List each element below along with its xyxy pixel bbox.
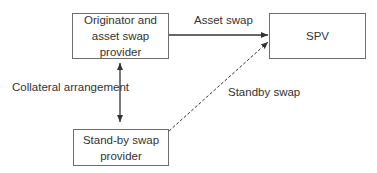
asset-swap-label: Asset swap <box>194 13 253 27</box>
collateral-arrangement-label: Collateral arrangement <box>12 80 129 94</box>
standby-label: Stand-by swap provider <box>83 132 159 164</box>
spv-node: SPV <box>269 13 366 59</box>
originator-label: Originator and asset swap provider <box>73 12 168 60</box>
diagram-canvas: Originator and asset swap provider SPV S… <box>0 0 377 173</box>
standby-node: Stand-by swap provider <box>73 129 169 166</box>
originator-node: Originator and asset swap provider <box>72 13 169 59</box>
standby-swap-label: Standby swap <box>228 85 300 99</box>
spv-label: SPV <box>306 28 329 44</box>
